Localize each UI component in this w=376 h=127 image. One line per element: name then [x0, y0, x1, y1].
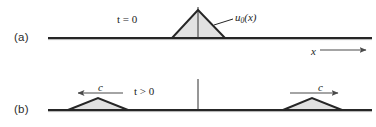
velocity-label-right-text: c — [318, 81, 323, 93]
x-axis-label-text: x — [311, 45, 316, 57]
panel-b-time-label: t > 0 — [134, 85, 154, 97]
panel-b — [48, 79, 372, 112]
velocity-label-left: c — [98, 81, 103, 93]
figure-canvas — [0, 0, 376, 127]
velocity-label-left-text: c — [98, 81, 103, 93]
panel-a — [48, 7, 372, 50]
panel-b-left-pulse-shading — [68, 98, 128, 110]
panel-a-label: (a) — [14, 31, 29, 43]
panel-a-pulse-leader-line — [214, 19, 233, 25]
velocity-label-right: c — [318, 81, 323, 93]
panel-b-right-pulse-shading — [283, 98, 342, 110]
wave-equation-figure: (a) (b) t = 0 t > 0 u0(x) x c c — [0, 0, 376, 127]
initial-condition-label-argument: (x) — [244, 11, 256, 23]
initial-condition-label: u0(x) — [235, 11, 256, 25]
panel-b-label: (b) — [14, 103, 29, 115]
x-axis-label: x — [311, 45, 316, 57]
panel-a-time-label: t = 0 — [117, 13, 137, 25]
